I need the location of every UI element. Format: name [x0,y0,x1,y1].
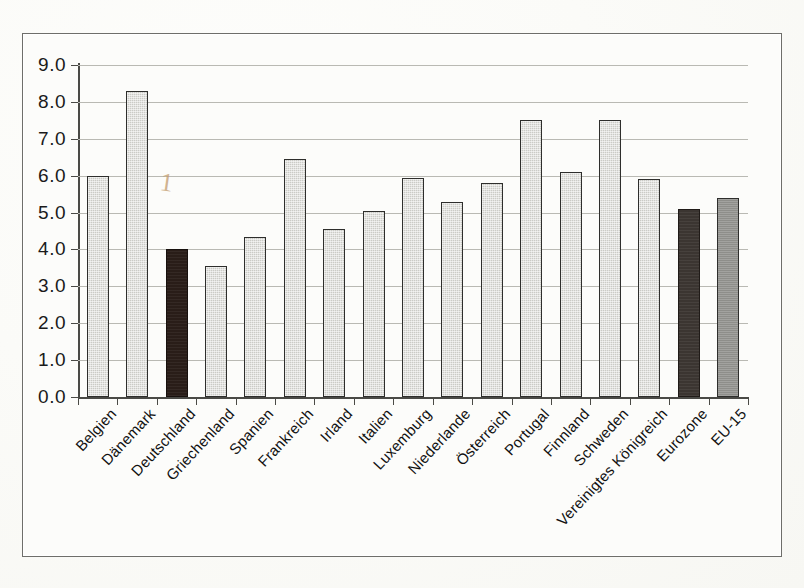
y-axis-tick [71,397,78,398]
x-axis-tick [590,397,591,405]
gridline [78,65,748,66]
bar-vereinigtes-k-nigreich[interactable] [638,179,660,397]
bar-luxemburg[interactable] [402,178,424,397]
x-axis-tick [236,397,237,405]
x-axis-tick [275,397,276,405]
x-axis-tick [157,397,158,405]
bar-italien[interactable] [363,211,385,397]
gridline [78,139,748,140]
bar-portugal[interactable] [520,120,542,397]
bar-eu-15[interactable] [717,198,739,397]
x-axis-baseline [78,397,748,399]
bar-spanien[interactable] [244,237,266,397]
x-axis-tick [314,397,315,405]
bar-deutschland[interactable] [166,249,188,397]
bar--sterreich[interactable] [481,183,503,397]
y-axis-label: 1.0 [38,349,66,371]
x-axis-label-eu-15: EU-15 [708,405,750,448]
bar-chart: 9.08.07.06.05.04.03.02.01.00.0 1 Belgien… [0,0,804,588]
y-axis-tick [71,360,78,361]
x-axis-tick [669,397,670,405]
x-axis-tick [630,397,631,405]
y-axis-label: 0.0 [38,386,66,408]
bar-d-nemark[interactable] [126,91,148,397]
x-axis-tick [551,397,552,405]
bar-schweden[interactable] [599,120,621,397]
y-axis-tick [71,323,78,324]
y-axis-label: 7.0 [38,128,66,150]
bar-belgien[interactable] [87,176,109,397]
y-axis-label: 8.0 [38,91,66,113]
x-axis-tick [748,397,749,405]
x-axis-tick [354,397,355,405]
y-axis-tick [71,213,78,214]
x-axis-tick [709,397,710,405]
y-axis-tick [71,286,78,287]
x-axis-tick [472,397,473,405]
y-axis-tick [71,176,78,177]
x-axis-tick [196,397,197,405]
y-axis-tick [71,102,78,103]
y-axis-tick [71,139,78,140]
gridline [78,102,748,103]
y-axis-label: 4.0 [38,238,66,260]
gridline [78,176,748,177]
bar-griechenland[interactable] [205,266,227,397]
plot-area: 9.08.07.06.05.04.03.02.01.00.0 [78,65,748,397]
y-axis-tick [71,249,78,250]
bar-niederlande[interactable] [441,202,463,398]
y-axis-label: 2.0 [38,312,66,334]
bar-eurozone[interactable] [678,209,700,397]
bar-finnland[interactable] [560,172,582,397]
y-axis-label: 5.0 [38,202,66,224]
x-axis-tick [393,397,394,405]
y-axis-label: 9.0 [38,54,66,76]
bar-irland[interactable] [323,229,345,397]
y-axis-label: 3.0 [38,275,66,297]
y-axis-tick [71,65,78,66]
x-axis-tick [512,397,513,405]
x-axis-tick [433,397,434,405]
x-axis-tick [117,397,118,405]
x-axis-tick [78,397,79,405]
y-axis-label: 6.0 [38,165,66,187]
bar-frankreich[interactable] [284,159,306,397]
x-axis-label-irland: Irland [317,405,356,445]
